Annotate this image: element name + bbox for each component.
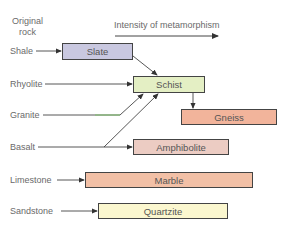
rock-basalt: Basalt [10,142,35,152]
intensity-axis-label: Intensity of metamorphism [114,20,220,30]
rock-rhyolite: Rhyolite [10,79,43,89]
box-amphibolite: Amphibolite [133,139,229,155]
original-rock-header: Original rock [12,16,43,38]
rock-sandstone: Sandstone [10,206,53,216]
box-gneiss: Gneiss [181,109,277,125]
rock-limestone: Limestone [10,175,52,185]
box-marble: Marble [85,172,253,188]
header-line-1: Original [12,16,43,27]
box-slate: Slate [62,43,133,60]
header-line-2: rock [12,27,43,38]
box-quartzite: Quartzite [98,203,228,219]
rock-granite: Granite [10,110,40,120]
rock-shale: Shale [10,46,33,56]
box-schist: Schist [133,76,205,93]
